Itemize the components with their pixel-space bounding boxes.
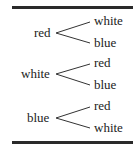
root-label-blue: blue <box>27 111 49 124</box>
root-label-red: red <box>34 26 51 39</box>
child-label-white: white <box>94 121 123 134</box>
child-label-blue: blue <box>94 36 116 49</box>
bottom-rule <box>12 141 133 144</box>
child-label-red: red <box>94 56 111 69</box>
child-label-red: red <box>94 99 111 112</box>
child-label-blue: blue <box>94 78 116 91</box>
child-label-white: white <box>94 14 123 27</box>
root-label-white: white <box>21 67 50 80</box>
